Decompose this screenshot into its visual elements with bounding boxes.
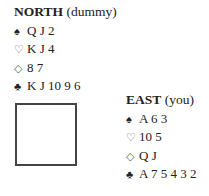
east-hand: EAST (you) ♠A 6 3 ♡10 5 ◇Q J ♣A 7 5 4 3 …	[126, 91, 196, 184]
north-clubs-cards: K J 10 9 6	[27, 78, 80, 93]
north-title: NORTH (dummy)	[14, 3, 117, 22]
east-hearts: ♡10 5	[126, 128, 196, 147]
north-clubs: ♣K J 10 9 6	[14, 77, 117, 96]
table-diagram-box	[15, 103, 77, 166]
heart-icon: ♡	[126, 128, 139, 147]
diamond-icon: ◇	[126, 147, 139, 166]
club-icon: ♣	[126, 165, 139, 184]
north-spades-cards: Q J 2	[27, 23, 54, 38]
heart-icon: ♡	[14, 40, 27, 59]
north-role: (dummy)	[66, 4, 116, 19]
north-spades: ♠Q J 2	[14, 22, 117, 41]
north-diamonds: ◇8 7	[14, 59, 117, 78]
north-hand: NORTH (dummy) ♠Q J 2 ♡K J 4 ◇8 7 ♣K J 10…	[14, 3, 117, 96]
north-diamonds-cards: 8 7	[27, 60, 43, 75]
club-icon: ♣	[14, 77, 27, 96]
east-spades-cards: A 6 3	[139, 111, 167, 126]
east-spades: ♠A 6 3	[126, 110, 196, 129]
east-title: EAST (you)	[126, 91, 196, 110]
east-clubs-cards: A 7 5 4 3 2	[139, 166, 196, 181]
north-hearts-cards: K J 4	[27, 41, 54, 56]
east-hearts-cards: 10 5	[139, 129, 162, 144]
north-hearts: ♡K J 4	[14, 40, 117, 59]
east-role: (you)	[165, 92, 194, 107]
east-clubs: ♣A 7 5 4 3 2	[126, 165, 196, 184]
east-name: EAST	[126, 92, 161, 107]
diamond-icon: ◇	[14, 59, 27, 78]
spade-icon: ♠	[14, 22, 27, 41]
east-diamonds-cards: Q J	[139, 148, 157, 163]
spade-icon: ♠	[126, 110, 139, 129]
north-name: NORTH	[14, 4, 63, 19]
east-diamonds: ◇Q J	[126, 147, 196, 166]
